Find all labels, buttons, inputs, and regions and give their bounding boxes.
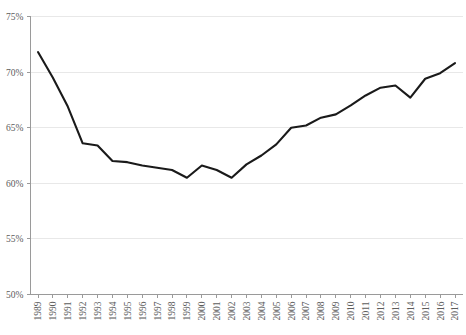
x-tick-label: 1991 xyxy=(63,301,73,320)
x-tick-label: 2004 xyxy=(257,301,267,320)
x-tick-label: 1990 xyxy=(48,301,58,320)
x-tick-label: 2006 xyxy=(287,301,297,320)
data-series-line xyxy=(38,52,455,178)
x-tick-label: 1996 xyxy=(138,301,148,320)
x-tick-label: 2014 xyxy=(406,301,416,320)
x-tick-label: 2012 xyxy=(376,301,386,320)
gridlines xyxy=(31,17,463,295)
x-tick-label: 2001 xyxy=(212,301,222,320)
chart-canvas: 75%70%65%60%55%50% 198919901991199219931… xyxy=(0,0,466,335)
x-tick-label: 2000 xyxy=(197,301,207,320)
x-tick-label: 2013 xyxy=(391,301,401,320)
x-tick-label: 2002 xyxy=(227,301,237,320)
line-chart: 75%70%65%60%55%50% 198919901991199219931… xyxy=(0,0,466,335)
axis-lines xyxy=(27,17,463,299)
x-tick-label: 1999 xyxy=(182,301,192,320)
x-tick-label: 2003 xyxy=(242,301,252,320)
y-tick-label: 55% xyxy=(6,234,24,244)
x-tick-label: 2017 xyxy=(450,301,460,320)
y-tick-label: 75% xyxy=(6,12,24,22)
y-axis-labels: 75%70%65%60%55%50% xyxy=(6,12,24,300)
y-tick-label: 65% xyxy=(6,123,24,133)
x-tick-label: 2011 xyxy=(361,301,371,320)
x-tick-label: 2007 xyxy=(301,301,311,320)
x-tick-label: 2016 xyxy=(436,301,446,320)
y-tick-label: 60% xyxy=(6,179,24,189)
y-tick-label: 50% xyxy=(6,290,24,300)
x-tick-label: 1998 xyxy=(167,301,177,320)
x-axis-labels: 1989199019911992199319941995199619971998… xyxy=(33,301,460,320)
x-tick-label: 1995 xyxy=(123,301,133,320)
series-group xyxy=(38,52,455,178)
x-tick-label: 2008 xyxy=(316,301,326,320)
x-tick-label: 2005 xyxy=(272,301,282,320)
x-tick-label: 1994 xyxy=(108,301,118,320)
x-tick-label: 2010 xyxy=(346,301,356,320)
x-tick-label: 1992 xyxy=(78,301,88,320)
x-tick-label: 1997 xyxy=(153,301,163,320)
x-tick-label: 1989 xyxy=(33,301,43,320)
x-tick-label: 2015 xyxy=(421,301,431,320)
x-tick-label: 1993 xyxy=(93,301,103,320)
x-tick-label: 2009 xyxy=(331,301,341,320)
y-tick-label: 70% xyxy=(6,68,24,78)
